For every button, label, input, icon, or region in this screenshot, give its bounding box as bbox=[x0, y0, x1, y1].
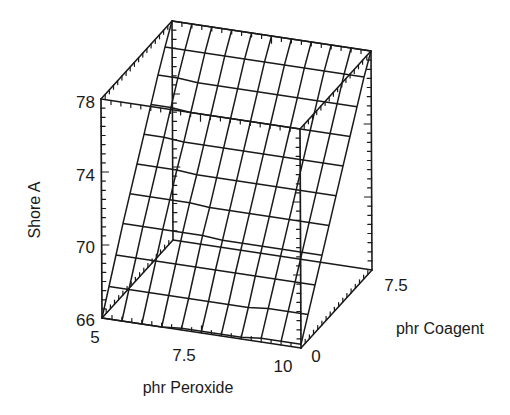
plot-box-back-edges bbox=[101, 21, 372, 348]
surface-gridline-peroxide bbox=[102, 21, 172, 318]
y-tick-label-7.5: 7.5 bbox=[384, 276, 408, 295]
z-tick-label-78: 78 bbox=[76, 93, 95, 112]
z-tick-label-74: 74 bbox=[76, 166, 95, 185]
x-axis-title: phr Peroxide bbox=[143, 379, 234, 396]
box-edge bbox=[173, 240, 372, 270]
y-axis-title: phr Coagent bbox=[396, 320, 485, 337]
axis-tick-marks bbox=[101, 23, 372, 347]
surface-gridline-peroxide bbox=[182, 33, 252, 328]
x-tick-label-5: 5 bbox=[90, 328, 99, 347]
surface-gridline-peroxide bbox=[301, 51, 371, 344]
y-tick-label-0: 0 bbox=[311, 347, 320, 366]
surface-gridline-peroxide bbox=[281, 48, 351, 341]
surface-plot-figure: 78 74 70 66 Shore A 5 7.5 10 phr Peroxid… bbox=[0, 0, 510, 415]
z-axis-title: Shore A bbox=[26, 181, 43, 238]
surface-plot-canvas: 78 74 70 66 Shore A 5 7.5 10 phr Peroxid… bbox=[0, 0, 510, 415]
surface-gridline-peroxide bbox=[221, 39, 291, 334]
plot-box-front-edges bbox=[101, 99, 301, 348]
surface-gridline-peroxide bbox=[261, 45, 331, 338]
surface-gridline-peroxide bbox=[202, 36, 272, 331]
x-tick-label-7.5: 7.5 bbox=[172, 346, 196, 365]
surface-mesh bbox=[102, 21, 371, 344]
box-edge bbox=[301, 270, 372, 348]
surface-gridline-peroxide bbox=[122, 24, 192, 321]
z-tick-label-70: 70 bbox=[76, 238, 95, 257]
x-tick-label-10: 10 bbox=[274, 357, 293, 376]
